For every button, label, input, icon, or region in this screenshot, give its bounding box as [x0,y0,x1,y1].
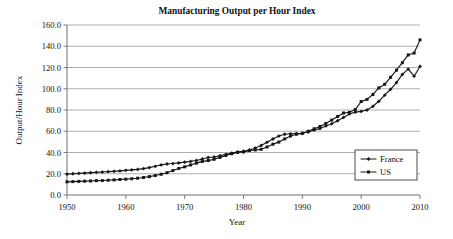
data-point [230,152,233,155]
y-tick-label: 20.0 [46,169,61,179]
data-point [271,143,274,146]
y-axis-ticks: 0.020.040.060.080.0100.0120.0140.0160.0 [42,20,67,200]
data-point [289,135,292,138]
data-point [71,172,75,176]
data-point [147,166,151,170]
data-point [218,156,221,159]
data-point [301,132,304,135]
chart-legend[interactable]: FranceUS [355,150,417,180]
data-point [171,169,174,172]
data-point [242,150,245,153]
data-point [419,38,422,41]
data-point [277,141,280,144]
data-point [130,168,134,172]
data-point [313,127,316,130]
y-tick-label: 100.0 [42,84,61,94]
data-point [206,156,210,160]
legend-label-us[interactable]: US [380,167,391,177]
data-point [318,125,321,128]
x-tick-label: 1950 [58,202,75,212]
data-point [106,170,110,174]
chart-container: Manufacturing Output per Hour Index 0.02… [0,0,453,239]
data-point [142,176,145,179]
x-tick-label: 1960 [117,202,134,212]
data-point [342,111,345,114]
data-point [201,160,204,163]
data-point [83,180,86,183]
data-point [177,161,181,165]
legend-label-france[interactable]: France [380,154,404,164]
data-point [118,169,122,173]
line-chart: Manufacturing Output per Hour Index 0.02… [0,0,453,239]
data-point [65,172,69,176]
data-point [142,167,146,171]
data-point [389,76,392,79]
data-point [283,137,286,140]
data-point [183,165,186,168]
data-point [165,162,169,166]
y-tick-label: 140.0 [42,41,61,51]
data-point [66,180,69,183]
data-point [71,180,74,183]
data-point [183,160,187,164]
data-point [324,122,327,125]
x-tick-label: 1970 [176,202,193,212]
data-point [160,173,163,176]
data-point [354,108,357,111]
data-point [159,163,163,167]
data-point [118,178,121,181]
data-point [377,86,380,89]
data-point [395,69,398,72]
data-point [89,179,92,182]
data-point [413,52,416,55]
data-point [124,168,128,172]
data-point [154,174,157,177]
data-point [224,154,227,157]
data-point [336,115,339,118]
data-point [254,148,257,151]
data-point [130,177,133,180]
data-point [383,83,386,86]
y-tick-label: 60.0 [46,126,61,136]
x-axis-label: Year [229,217,246,227]
y-tick-label: 120.0 [42,63,61,73]
x-tick-label: 1980 [235,202,252,212]
x-axis-ticks: 1950196019701980199020002010 [58,195,428,212]
data-point [189,163,192,166]
x-tick-label: 2000 [353,202,370,212]
data-point [124,178,127,181]
data-point [348,111,351,114]
y-tick-label: 40.0 [46,148,61,158]
data-point [366,98,369,101]
data-point [83,171,87,175]
data-point [371,93,374,96]
data-point [277,134,281,138]
data-point [112,169,116,173]
data-point [213,158,216,161]
data-point [166,171,169,174]
data-point [171,162,175,166]
data-point [136,177,139,180]
data-point [148,175,151,178]
data-point [195,162,198,165]
data-point [260,148,263,151]
data-point [101,179,104,182]
data-point [407,53,410,56]
data-point [189,160,193,164]
data-point [153,164,157,168]
data-point [77,172,81,176]
data-point [295,133,298,136]
y-tick-label: 160.0 [42,20,61,30]
data-point [95,179,98,182]
data-point [401,61,404,64]
y-tick-label: 80.0 [46,105,61,115]
y-axis-label: Output/Hour Index [14,75,24,144]
data-point [360,100,363,103]
data-point [77,180,80,183]
data-point [236,151,239,154]
data-point [113,178,116,181]
data-point [248,149,251,152]
legend-marker [367,171,370,174]
y-tick-label: 0.0 [50,190,61,200]
data-point [283,132,287,136]
